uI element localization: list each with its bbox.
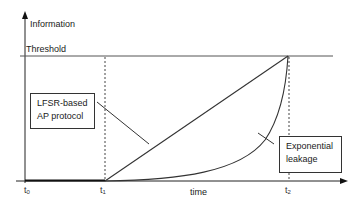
tick-t0-sub: 0 [27,189,30,195]
lfsr-callout-line2: AP protocol [37,110,94,123]
lfsr-linear-curve [105,56,288,181]
x-axis-label: time [190,188,207,197]
lfsr-callout-line1: LFSR-based [37,97,94,110]
exponential-callout-box: Exponential leakage [279,136,342,173]
exponential-leader-line [258,133,274,144]
y-axis-arrow-icon [22,11,28,19]
tick-t2-sub: 2 [288,189,291,195]
exponential-callout-line1: Exponential [286,140,341,153]
y-axis-label: Information [30,20,75,29]
tick-t1-sub: 1 [103,189,106,195]
lfsr-callout-box: LFSR-based AP protocol [30,93,95,129]
tick-t0: t0 [24,186,30,195]
tick-t2: t2 [285,186,291,195]
exponential-callout-line2: leakage [286,153,341,166]
threshold-label: Threshold [26,45,66,54]
x-axis-arrow-icon [340,178,348,184]
tick-t1: t1 [100,186,106,195]
